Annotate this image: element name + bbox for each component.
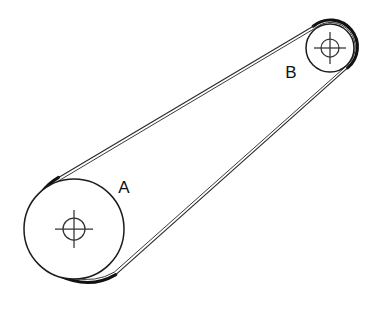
belt-span-upper-inner (60, 29, 314, 180)
belt-span-upper-outer (59, 26, 314, 177)
pulley-b-label: B (285, 63, 296, 82)
belt-span-lower-inner (114, 67, 345, 273)
pulley-a-group[interactable] (24, 179, 124, 279)
belt-pulley-diagram: A B (0, 0, 373, 310)
pulley-b-group[interactable] (306, 24, 354, 72)
pulley-a-label: A (118, 178, 130, 197)
diagram-canvas: A B (0, 0, 373, 310)
belt-span-lower-outer (116, 68, 348, 275)
